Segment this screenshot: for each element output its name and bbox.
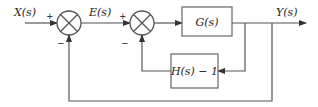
error-signal-label: E(s) [88, 6, 111, 19]
sum1-plus-sign: + [46, 11, 54, 21]
block-diagram: X(s) + − E(s) + − G(s) Y(s) H(s) − 1 [0, 0, 318, 107]
sum2-minus-sign: − [121, 38, 129, 48]
summing-junction-2 [130, 11, 154, 35]
output-signal-label: Y(s) [276, 6, 298, 19]
sum2-plus-sign: + [119, 11, 127, 21]
inner-feedback-return [142, 35, 171, 71]
input-signal-label: X(s) [13, 6, 36, 19]
feedback-block-h-minus-1: H(s) − 1 [170, 54, 218, 88]
forward-block-label: G(s) [195, 16, 218, 29]
forward-block-g: G(s) [182, 7, 232, 36]
summing-junction-1 [57, 11, 81, 35]
sum1-minus-sign: − [57, 38, 65, 48]
feedback-block-label: H(s) − 1 [170, 65, 218, 78]
